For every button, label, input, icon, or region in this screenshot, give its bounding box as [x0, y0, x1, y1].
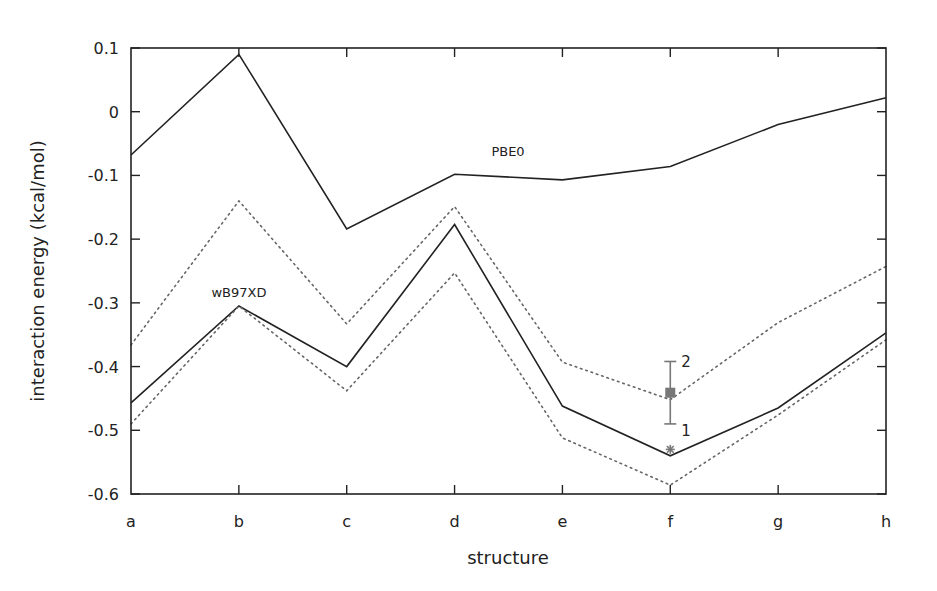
x-axis-title: structure	[467, 547, 549, 568]
y-tick-label: -0.3	[88, 294, 119, 313]
series-label-wb97xd: wB97XD	[211, 285, 266, 300]
series-line-pbe0	[131, 54, 886, 229]
x-tick-label: d	[449, 512, 459, 531]
star-marker	[666, 445, 675, 454]
y-tick-label: -0.4	[88, 358, 119, 377]
error-bar-label-1: 1	[681, 422, 691, 440]
error-bar-label-2: 2	[681, 353, 691, 371]
y-tick-label: -0.5	[88, 421, 119, 440]
x-tick-label: h	[881, 512, 891, 531]
y-axis-title: interaction energy (kcal/mol)	[27, 140, 48, 402]
x-tick-label: b	[234, 512, 244, 531]
y-tick-label: -0.6	[88, 485, 119, 504]
x-tick-label: e	[558, 512, 568, 531]
series-line-wb97xd-upper-bound	[131, 201, 886, 400]
plot-markers: 21	[664, 353, 691, 453]
y-tick-label: 0.1	[94, 39, 119, 58]
series-line-wb97xd	[131, 225, 886, 456]
x-tick-label: f	[667, 512, 673, 531]
y-tick-label: 0	[109, 103, 119, 122]
x-tick-label: c	[342, 512, 351, 531]
y-axis-ticks: 0.10-0.1-0.2-0.3-0.4-0.5-0.6	[88, 39, 886, 504]
x-tick-label: a	[126, 512, 136, 531]
plot-frame	[131, 48, 886, 494]
series-label-pbe0: PBE0	[491, 144, 524, 159]
x-tick-label: g	[773, 512, 783, 531]
y-tick-label: -0.1	[88, 166, 119, 185]
line-chart: 21 0.10-0.1-0.2-0.3-0.4-0.5-0.6 abcdefgh…	[0, 0, 937, 591]
series-line-wb97xd-lower-bound	[131, 273, 886, 485]
plot-lines	[131, 54, 886, 485]
y-tick-label: -0.2	[88, 230, 119, 249]
series-annotations: PBE0wB97XD	[211, 144, 524, 300]
square-marker	[665, 388, 675, 398]
